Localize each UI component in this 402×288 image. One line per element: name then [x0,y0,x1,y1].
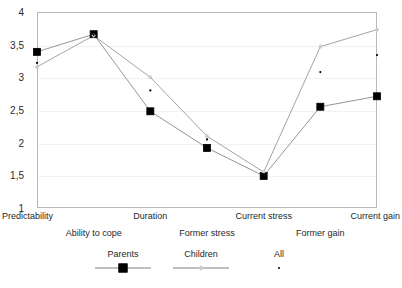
dot-marker-icon [278,267,280,269]
series-line-parents [37,34,377,176]
legend-label: Parents [107,249,138,259]
legend-label: All [274,249,284,259]
x-axis-label: Current gain [350,211,400,221]
square-marker-icon [119,264,128,273]
x-axis-label: Predictability [2,211,53,221]
data-point-all [376,54,378,56]
line-chart: 11,522,533,54 PredictabilityAbility to c… [0,0,402,288]
x-axis-label: Ability to cope [66,228,122,238]
legend-key-line-diamond [173,263,229,273]
data-point-parents [204,144,211,151]
data-point-parents [147,108,154,115]
data-point-all [149,89,151,91]
legend-label: Children [184,249,218,259]
data-point-children [318,44,323,49]
x-axis-label: Former stress [179,228,235,238]
legend-key-line-square [95,263,151,273]
data-point-parents [374,93,381,100]
x-axis-label: Current stress [235,211,292,221]
data-point-all [206,138,208,140]
chart-legend: ParentsChildrenAll [0,249,402,273]
data-point-all [263,173,265,175]
legend-item-parents[interactable]: Parents [93,249,153,273]
legend-key-dot [251,263,307,273]
legend-item-children[interactable]: Children [171,249,231,273]
data-point-children [375,27,380,32]
data-point-children [35,65,40,70]
data-point-all [93,34,95,36]
legend-item-all[interactable]: All [249,249,309,273]
data-point-all [319,71,321,73]
data-point-all [36,62,38,64]
series-layer [0,0,402,288]
data-point-parents [34,48,41,55]
data-point-parents [317,103,324,110]
x-axis-label: Former gain [296,228,345,238]
diamond-marker-icon [198,265,204,271]
x-axis-label: Duration [133,211,167,221]
